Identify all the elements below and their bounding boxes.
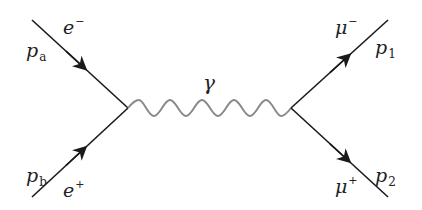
- label-pb: pb: [26, 166, 46, 185]
- label-e-plus: e+: [63, 181, 83, 200]
- arrow-icon: [66, 51, 82, 66]
- arrow-icon: [330, 58, 346, 73]
- arrow-icon: [330, 144, 346, 159]
- label-pa: pa: [26, 41, 45, 60]
- label-mu-minus: μ−: [335, 18, 357, 37]
- label-p2: p2: [375, 166, 395, 185]
- arrow-icon: [66, 151, 82, 166]
- label-mu-plus: μ+: [335, 177, 357, 196]
- label-gamma: γ: [203, 73, 215, 93]
- photon-line: [128, 100, 291, 116]
- label-e-minus: e−: [63, 18, 83, 37]
- feynman-diagram: pa e− pb e+ γ μ− p1 μ+ p2: [0, 0, 422, 210]
- label-p1: p1: [375, 38, 395, 57]
